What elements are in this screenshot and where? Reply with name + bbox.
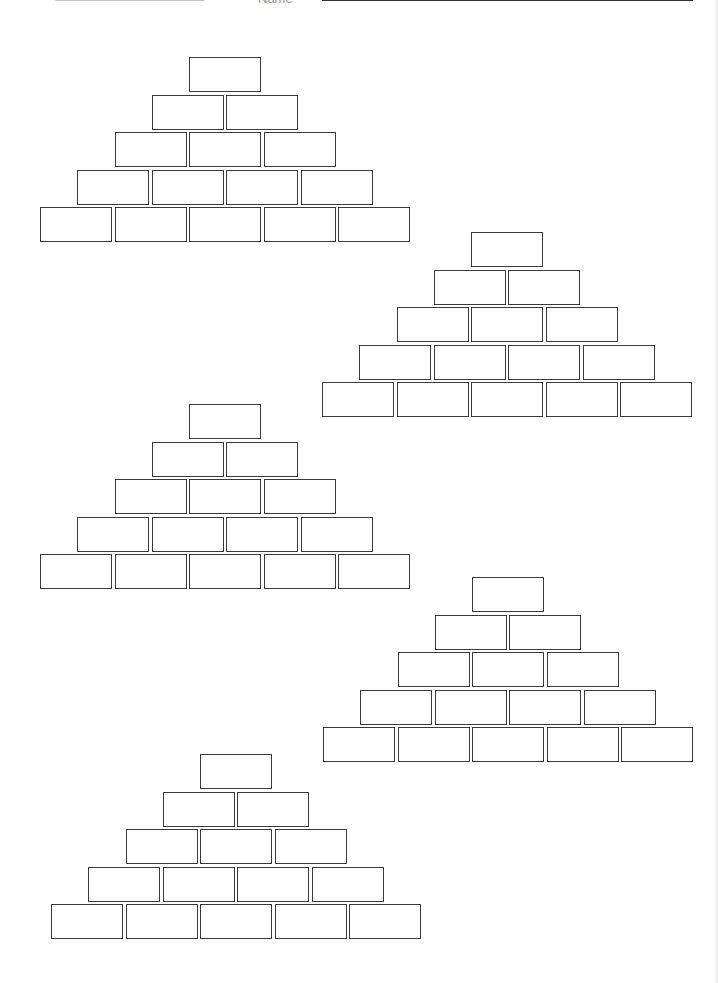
pyramid-brick[interactable] (126, 904, 198, 939)
pyramid-brick[interactable] (115, 132, 187, 167)
pyramid-brick[interactable] (77, 517, 149, 552)
pyramid-brick[interactable] (264, 132, 336, 167)
worksheet-title-bar (55, 0, 205, 1)
pyramid-brick[interactable] (471, 382, 543, 417)
pyramid-brick[interactable] (397, 382, 469, 417)
pyramid-brick[interactable] (115, 554, 187, 589)
pyramid-brick[interactable] (472, 727, 544, 762)
pyramid-brick[interactable] (621, 727, 693, 762)
pyramid-brick[interactable] (546, 307, 618, 342)
pyramid-brick[interactable] (508, 345, 580, 380)
pyramid-brick[interactable] (434, 345, 506, 380)
pyramid-brick[interactable] (275, 829, 347, 864)
pyramid-brick[interactable] (398, 727, 470, 762)
pyramid-brick[interactable] (237, 867, 309, 902)
page-edge (713, 0, 718, 983)
pyramid-brick[interactable] (264, 554, 336, 589)
pyramid-brick[interactable] (88, 867, 160, 902)
pyramid-brick[interactable] (189, 132, 261, 167)
pyramid-brick[interactable] (152, 170, 224, 205)
pyramid-brick[interactable] (200, 754, 272, 789)
pyramid-brick[interactable] (226, 170, 298, 205)
pyramid-brick[interactable] (435, 690, 507, 725)
pyramid-brick[interactable] (264, 479, 336, 514)
pyramid-brick[interactable] (338, 207, 410, 242)
pyramid-brick[interactable] (547, 652, 619, 687)
pyramid-brick[interactable] (312, 867, 384, 902)
pyramid-brick[interactable] (115, 479, 187, 514)
pyramid-brick[interactable] (338, 554, 410, 589)
pyramid-brick[interactable] (349, 904, 421, 939)
pyramid-brick[interactable] (509, 615, 581, 650)
pyramid-brick[interactable] (471, 232, 543, 267)
pyramid-brick[interactable] (301, 517, 373, 552)
pyramid-brick[interactable] (152, 517, 224, 552)
pyramid-brick[interactable] (189, 57, 261, 92)
pyramid-brick[interactable] (163, 867, 235, 902)
pyramid-brick[interactable] (397, 307, 469, 342)
pyramid-brick[interactable] (471, 307, 543, 342)
pyramid-brick[interactable] (583, 345, 655, 380)
pyramid-brick[interactable] (264, 207, 336, 242)
pyramid-brick[interactable] (547, 727, 619, 762)
pyramid-brick[interactable] (435, 615, 507, 650)
name-field[interactable] (322, 0, 693, 1)
pyramid-brick[interactable] (115, 207, 187, 242)
pyramid-brick[interactable] (508, 270, 580, 305)
pyramid-brick[interactable] (163, 792, 235, 827)
pyramid-brick[interactable] (152, 95, 224, 130)
pyramid-brick[interactable] (189, 554, 261, 589)
pyramid-brick[interactable] (226, 442, 298, 477)
pyramid-brick[interactable] (360, 690, 432, 725)
pyramid-brick[interactable] (237, 792, 309, 827)
pyramid-brick[interactable] (546, 382, 618, 417)
pyramid-brick[interactable] (51, 904, 123, 939)
pyramid-brick[interactable] (359, 345, 431, 380)
name-label: Name (258, 0, 293, 6)
pyramid-brick[interactable] (620, 382, 692, 417)
pyramid-brick[interactable] (472, 577, 544, 612)
pyramid-brick[interactable] (322, 382, 394, 417)
pyramid-brick[interactable] (398, 652, 470, 687)
pyramid-brick[interactable] (434, 270, 506, 305)
pyramid-brick[interactable] (40, 554, 112, 589)
pyramid-brick[interactable] (200, 904, 272, 939)
pyramid-brick[interactable] (275, 904, 347, 939)
pyramid-brick[interactable] (189, 404, 261, 439)
pyramid-brick[interactable] (301, 170, 373, 205)
pyramid-brick[interactable] (509, 690, 581, 725)
pyramid-brick[interactable] (126, 829, 198, 864)
pyramid-brick[interactable] (152, 442, 224, 477)
pyramid-brick[interactable] (189, 479, 261, 514)
pyramid-brick[interactable] (226, 95, 298, 130)
pyramid-brick[interactable] (584, 690, 656, 725)
pyramid-brick[interactable] (226, 517, 298, 552)
pyramid-brick[interactable] (200, 829, 272, 864)
pyramid-brick[interactable] (77, 170, 149, 205)
pyramid-brick[interactable] (189, 207, 261, 242)
pyramid-brick[interactable] (323, 727, 395, 762)
pyramid-brick[interactable] (472, 652, 544, 687)
pyramid-brick[interactable] (40, 207, 112, 242)
